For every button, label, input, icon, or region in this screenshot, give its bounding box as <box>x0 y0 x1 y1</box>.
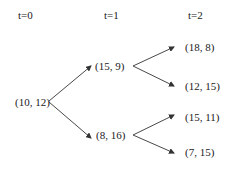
edge-up-to-updown <box>133 66 174 86</box>
node-t2-up-up: (18, 8) <box>185 41 214 53</box>
edge-root-to-up <box>49 66 91 101</box>
node-t2-down-down: (7, 15) <box>185 146 214 158</box>
edge-down-to-downup <box>133 115 174 135</box>
node-root: (10, 12) <box>15 96 50 108</box>
node-t2-down-up: (15, 11) <box>185 111 219 123</box>
node-t2-up-down: (12, 15) <box>185 80 220 92</box>
node-t1-up: (15, 9) <box>95 60 124 72</box>
edge-root-to-down <box>49 102 91 138</box>
node-t1-down: (8, 16) <box>96 129 125 141</box>
edge-down-to-downdown <box>133 135 174 153</box>
edge-up-to-upup <box>133 47 174 66</box>
